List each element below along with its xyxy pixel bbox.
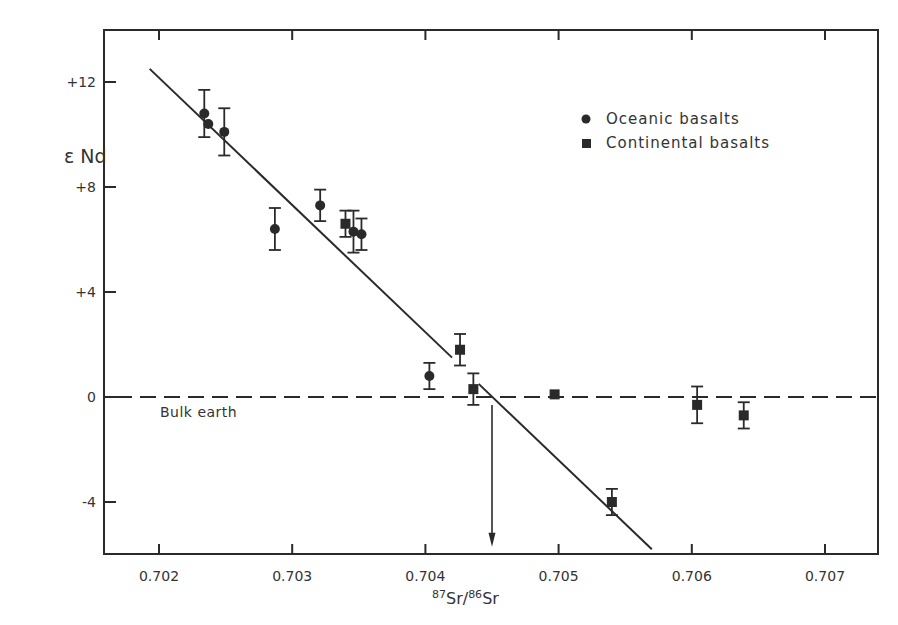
legend-label-continental: Continental basalts	[606, 134, 770, 152]
y-tick-label: 0	[87, 389, 96, 405]
oceanic-point	[356, 229, 366, 239]
oceanic-point	[199, 109, 209, 119]
x-tick-label: 0.702	[139, 568, 179, 584]
y-axis-ticks: +12+8+40-4	[66, 74, 116, 510]
x-tick-label: 0.706	[672, 568, 712, 584]
y-tick-label: +8	[75, 179, 96, 195]
intercept-arrow	[489, 405, 496, 547]
continental-point	[550, 389, 560, 399]
data-points	[198, 90, 749, 515]
y-tick-label: +12	[66, 74, 96, 90]
bulk-earth-label: Bulk earth	[160, 404, 237, 420]
oceanic-point	[203, 119, 213, 129]
oceanic-point	[424, 371, 434, 381]
y-tick-label: +4	[75, 284, 96, 300]
legend: Oceanic basalts Continental basalts	[582, 110, 771, 152]
x-tick-label: 0.704	[405, 568, 445, 584]
continental-point	[692, 400, 702, 410]
oceanic-point	[315, 200, 325, 210]
oceanic-point	[219, 127, 229, 137]
continental-point	[455, 345, 465, 355]
legend-label-oceanic: Oceanic basalts	[606, 110, 740, 128]
continental-point	[340, 219, 350, 229]
x-axis-title: 87Sr/86Sr	[432, 588, 499, 608]
trend-line	[150, 69, 452, 358]
continental-point	[468, 384, 478, 394]
continental-point	[739, 410, 749, 420]
oceanic-point	[270, 224, 280, 234]
x-tick-label: 0.707	[805, 568, 845, 584]
x-tick-label: 0.705	[539, 568, 579, 584]
legend-circle-icon	[582, 115, 591, 124]
continental-point	[607, 497, 617, 507]
scatter-chart: 0.7020.7030.7040.7050.7060.707 +12+8+40-…	[0, 0, 898, 625]
x-tick-label: 0.703	[272, 568, 312, 584]
arrow-head-icon	[489, 533, 496, 547]
y-tick-label: -4	[82, 494, 96, 510]
legend-square-icon	[582, 139, 591, 148]
y-axis-title: ε Nd	[64, 145, 107, 167]
trend-line	[479, 384, 652, 549]
